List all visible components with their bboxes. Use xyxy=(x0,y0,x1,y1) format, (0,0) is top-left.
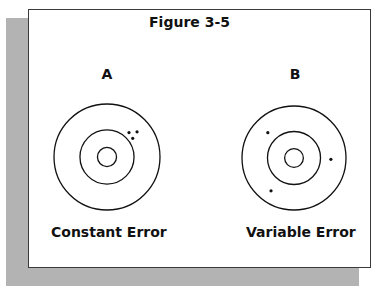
target-a xyxy=(54,104,160,210)
panel-a-caption: Constant Error xyxy=(51,224,167,240)
targets-diagram xyxy=(0,0,379,288)
middle-ring xyxy=(80,130,134,184)
shot-dot xyxy=(269,189,272,192)
shot-dot xyxy=(329,158,332,161)
bullseye-ring xyxy=(285,149,304,168)
target-b xyxy=(242,106,346,210)
middle-ring xyxy=(267,131,320,184)
panel-b-caption: Variable Error xyxy=(246,224,356,240)
outer-ring xyxy=(54,104,160,210)
shot-dot xyxy=(266,131,269,134)
shot-dot xyxy=(131,137,134,140)
shot-dot xyxy=(135,130,138,133)
bullseye-ring xyxy=(97,147,116,166)
shot-dot xyxy=(127,131,130,134)
